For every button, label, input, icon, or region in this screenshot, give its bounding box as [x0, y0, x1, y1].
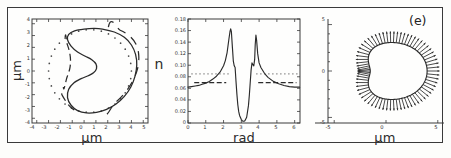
curvature-x-axis-title: rad: [204, 130, 284, 145]
contour-x-tick-1: -3: [38, 124, 50, 130]
measured-contour-solid: [67, 28, 136, 113]
curvature-y-tick-018: 0.18: [167, 16, 186, 22]
normals-x-tick-5: 5: [430, 124, 442, 130]
curvature-curve-solid: [188, 29, 300, 121]
model-contour-dashed: [62, 22, 139, 116]
contour-x-tick-9: 5: [138, 124, 150, 130]
contour-y-tick-m3: -3: [17, 107, 30, 113]
panel-contour: -4 -3 -2 -1 0 1 2 3 4 5 4 3 2 1 0 -1 -2 …: [6, 0, 158, 158]
curvature-y-tick-006: 0.06: [167, 85, 186, 91]
curvature-y-tick-000: 0: [167, 119, 186, 125]
normals-y-tick-m5: -5: [312, 119, 325, 125]
curvature-y-tick-010: 0.10: [167, 62, 186, 68]
figure-root: -4 -3 -2 -1 0 1 2 3 4 5 4 3 2 1 0 -1 -2 …: [0, 0, 451, 158]
curvature-y-tick-016: 0.16: [167, 27, 186, 33]
contour-y-tick-m2: -2: [17, 94, 30, 100]
contour-y-tick-4: 4: [19, 16, 30, 22]
normals-y-tick-0: 0: [314, 68, 325, 74]
panel-curvature: 0 1 2 3 4 5 6 0.18 0.16 0.14 0.12 0.10 0…: [158, 0, 310, 158]
contour-y-tick-m4: -4: [17, 119, 30, 125]
curvature-y-tick-008: 0.08: [167, 73, 186, 79]
curvature-y-tick-004: 0.04: [167, 96, 186, 102]
contour-y-tick-2: 2: [19, 42, 30, 48]
normals-x-axis-title: μm: [350, 130, 420, 145]
contour-y-axis-title: μm: [9, 51, 24, 91]
contour-y-tick-3: 3: [19, 29, 30, 35]
curvature-y-tick-012: 0.12: [167, 50, 186, 56]
curvature-y-tick-002: 0.02: [167, 108, 186, 114]
panel-normals: -5 0 5 5 0 -5 μm (e): [310, 0, 451, 158]
curvature-y-axis-title: n: [152, 56, 166, 72]
normals-contour-outline: [368, 43, 427, 100]
curvature-y-tick-014: 0.14: [167, 39, 186, 45]
contour-x-axis-title: μm: [52, 130, 132, 145]
panel-letter-e: (e): [409, 13, 426, 28]
normals-y-tick-5: 5: [314, 16, 325, 22]
curvature-x-tick-6: 6: [288, 124, 300, 130]
